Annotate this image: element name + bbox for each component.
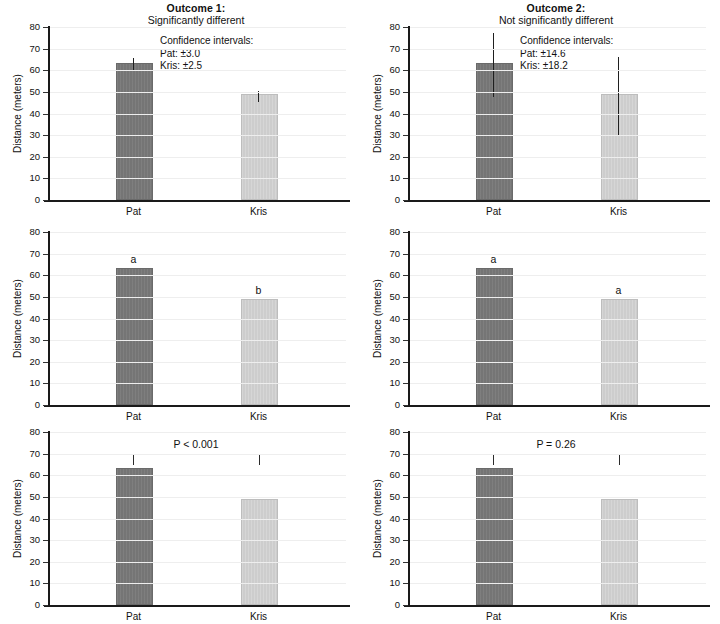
y-axis-title: Distance (meters) <box>372 479 383 558</box>
panel-subtitle-outcome-1: Significantly different <box>40 14 352 26</box>
figure-bar-chart-grid: Outcome 1: Significantly different Confi… <box>0 0 720 624</box>
y-axis-tick-label: 20 <box>389 152 400 162</box>
y-axis-tick <box>43 200 48 201</box>
y-axis-tick <box>43 232 48 233</box>
plot-area-bottom-right: P = 0.26 Pat Kris Distance (meters) 8070… <box>408 432 706 605</box>
y-axis-tick <box>43 157 48 158</box>
y-axis-tick <box>403 540 408 541</box>
gridline <box>50 27 346 28</box>
y-axis-tick-label: 20 <box>29 357 40 367</box>
y-axis-tick <box>403 178 408 179</box>
p-value-label: P < 0.001 <box>173 438 218 450</box>
y-axis-tick-label: 20 <box>29 557 40 567</box>
y-axis-tick <box>403 519 408 520</box>
bar-pat <box>476 468 513 605</box>
y-axis-tick-label: 60 <box>29 471 40 481</box>
y-axis-tick-label: 40 <box>389 514 400 524</box>
y-axis-tick-label: 50 <box>29 492 40 502</box>
panel-bottom-left: P < 0.001 Pat Kris Distance (meters) 807… <box>0 415 360 624</box>
gridline <box>50 254 346 255</box>
panel-top-left: Outcome 1: Significantly different Confi… <box>0 0 360 215</box>
y-axis-tick-label: 50 <box>29 87 40 97</box>
x-axis-line <box>404 405 710 407</box>
y-axis-tick <box>403 405 408 406</box>
y-axis-tick-label: 40 <box>29 109 40 119</box>
y-axis-tick <box>43 497 48 498</box>
panel-title-outcome-1: Outcome 1: <box>40 2 352 14</box>
y-axis-tick <box>403 583 408 584</box>
bar-pat <box>116 63 153 200</box>
gridline <box>410 383 706 384</box>
y-axis-tick-label: 60 <box>389 471 400 481</box>
y-axis-tick <box>403 157 408 158</box>
gridline <box>50 340 346 341</box>
y-axis-tick <box>403 454 408 455</box>
x-axis-line <box>44 605 350 607</box>
gridline <box>410 178 706 179</box>
y-axis-tick <box>43 254 48 255</box>
gridline <box>410 362 706 363</box>
y-axis-tick <box>43 275 48 276</box>
y-axis-tick-label: 30 <box>29 335 40 345</box>
y-axis-tick-label: 80 <box>389 227 400 237</box>
gridline <box>50 114 346 115</box>
y-axis-tick-label: 0 <box>35 400 40 410</box>
y-axis-title: Distance (meters) <box>12 279 23 358</box>
panel-middle-right: a a Pat Kris Distance (meters) 807060504… <box>360 215 720 415</box>
gridline <box>50 70 346 71</box>
y-axis-tick-label: 10 <box>29 579 40 589</box>
y-axis-tick <box>403 254 408 255</box>
y-axis-tick <box>43 340 48 341</box>
y-axis-tick <box>403 49 408 50</box>
y-axis-tick-label: 0 <box>395 400 400 410</box>
gridline <box>50 454 346 455</box>
y-axis-tick <box>43 383 48 384</box>
gridline <box>50 519 346 520</box>
significance-bracket <box>493 454 620 465</box>
gridline <box>410 540 706 541</box>
gridline <box>50 178 346 179</box>
y-axis-tick <box>403 135 408 136</box>
y-axis-tick-label: 40 <box>29 514 40 524</box>
gridline <box>50 319 346 320</box>
significance-letter-pat: a <box>131 253 137 265</box>
significance-letter-kris: a <box>616 284 622 296</box>
y-axis-tick-label: 0 <box>35 195 40 205</box>
ci-heading: Confidence intervals: <box>520 35 613 48</box>
y-axis-tick <box>403 114 408 115</box>
y-axis-tick <box>43 319 48 320</box>
y-axis-title: Distance (meters) <box>12 479 23 558</box>
gridline <box>50 157 346 158</box>
panel-middle-left: a b Pat Kris Distance (meters) 807060504… <box>0 215 360 415</box>
gridline <box>50 92 346 93</box>
y-axis-tick-label: 60 <box>29 271 40 281</box>
y-axis-tick <box>403 297 408 298</box>
y-axis-tick-label: 80 <box>29 22 40 32</box>
gridline <box>410 432 706 433</box>
panel-top-right: Outcome 2: Not significantly different C… <box>360 0 720 215</box>
y-axis-tick-label: 20 <box>389 557 400 567</box>
y-axis-tick-label: 80 <box>389 427 400 437</box>
gridline <box>50 275 346 276</box>
y-axis-tick <box>43 92 48 93</box>
y-axis-tick-label: 60 <box>389 271 400 281</box>
y-axis-tick-label: 10 <box>389 174 400 184</box>
y-axis-tick-label: 40 <box>389 109 400 119</box>
y-axis-tick-label: 0 <box>395 600 400 610</box>
y-axis-tick-label: 30 <box>29 130 40 140</box>
panel-bottom-right: P = 0.26 Pat Kris Distance (meters) 8070… <box>360 415 720 624</box>
gridline <box>410 454 706 455</box>
bar-kris <box>241 299 278 405</box>
y-axis-tick-label: 40 <box>29 314 40 324</box>
y-axis-tick-label: 70 <box>29 449 40 459</box>
gridline <box>410 232 706 233</box>
y-axis-tick-label: 0 <box>395 195 400 205</box>
x-axis-line <box>44 405 350 407</box>
error-bar-pat <box>493 33 494 96</box>
y-axis-tick <box>403 200 408 201</box>
gridline <box>410 583 706 584</box>
plot-area-middle-left: a b Pat Kris Distance (meters) 807060504… <box>48 232 346 405</box>
bar-kris <box>601 94 638 200</box>
gridline <box>50 135 346 136</box>
gridline <box>410 297 706 298</box>
